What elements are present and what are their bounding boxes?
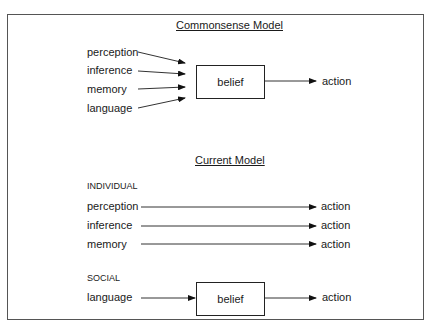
commonsense-input-inference: inference bbox=[87, 64, 132, 76]
social-output-action: action bbox=[322, 291, 351, 303]
individual-input-inference: inference bbox=[87, 219, 132, 231]
arrow-inference-belief bbox=[138, 71, 185, 74]
individual-output-action-3: action bbox=[321, 238, 350, 250]
individual-output-action-2: action bbox=[321, 219, 350, 231]
individual-label: INDIVIDUAL bbox=[87, 180, 138, 192]
commonsense-input-language: language bbox=[87, 102, 132, 114]
commonsense-input-memory: memory bbox=[87, 83, 127, 95]
social-belief-label: belief bbox=[217, 293, 243, 305]
social-label: SOCIAL bbox=[87, 272, 120, 284]
social-belief-node: belief bbox=[196, 282, 265, 316]
belief-node: belief bbox=[196, 65, 265, 99]
social-input-language: language bbox=[87, 291, 132, 303]
belief-label: belief bbox=[217, 76, 243, 88]
commonsense-input-perception: perception bbox=[87, 46, 138, 58]
arrow-memory-belief bbox=[138, 87, 185, 89]
current-model-title: Current Model bbox=[195, 154, 265, 166]
commonsense-output-action: action bbox=[322, 75, 351, 87]
commonsense-model-title: Commonsense Model bbox=[176, 19, 283, 31]
individual-output-action-1: action bbox=[321, 200, 350, 212]
individual-input-memory: memory bbox=[87, 238, 127, 250]
arrow-language-belief bbox=[138, 98, 185, 108]
individual-input-perception: perception bbox=[87, 200, 138, 212]
arrow-perception-belief bbox=[138, 52, 185, 63]
